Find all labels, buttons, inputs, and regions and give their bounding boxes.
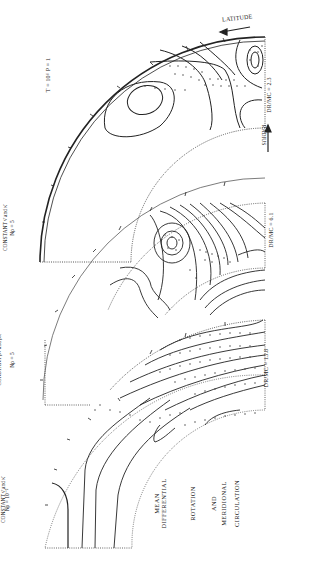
panel-bottom-tick-marks	[45, 398, 120, 505]
panel-condition-const-top: CONSTANT ν̄ and κ̄	[2, 205, 8, 251]
global-params-label: T = 10⁶ P = 1	[45, 58, 51, 93]
title-line-and: AND	[210, 495, 217, 510]
title-line-meridional: MERIDIONAL	[219, 481, 226, 525]
panel-condition-const-bottom: CONSTANT ν̄ and κ̄	[0, 477, 6, 523]
panel-condition-const-middle: CONSTANT ρ̄ν̄ and ρ̄κ̄	[0, 334, 2, 386]
title-line-differential: DIFFERENTIAL	[160, 478, 167, 528]
ratio-label-middle: DR/MC = 6.1	[267, 212, 273, 247]
panel-bottom-dots	[94, 404, 255, 425]
radius-axis-label: RADIUS	[261, 125, 267, 145]
latitude-arrow-icon	[220, 27, 250, 35]
panel-top-circulation-dots	[144, 45, 262, 90]
panel-top-tick-marks	[42, 38, 225, 222]
ratio-label-lower: DR/MC = 13.8	[263, 349, 269, 388]
panel-middle-contours	[43, 178, 265, 400]
panel-lower-contours	[45, 320, 265, 410]
panel-middle-tick-marks	[40, 182, 225, 380]
panel-top-contours	[40, 37, 265, 262]
panel-lower-dots	[159, 332, 255, 394]
panel-condition-n-top: Nρ = 5	[8, 220, 14, 235]
title-line-rotation: ROTATION	[189, 486, 196, 521]
panel-middle-dots	[164, 234, 230, 278]
title-line-circulation: CIRCULATION	[233, 479, 240, 526]
title-line-mean: MEAN	[152, 493, 159, 513]
panel-condition-n-middle: Nρ = 5	[8, 352, 14, 367]
ratio-label-top: DR/MC = 2.3	[265, 77, 271, 112]
panel-bottom-contours	[45, 375, 265, 548]
